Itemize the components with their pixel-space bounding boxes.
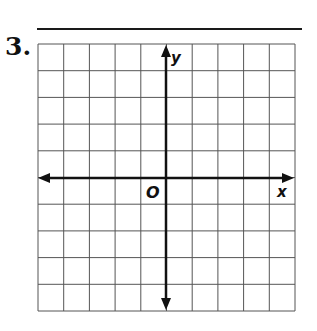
x-axis-label: x	[276, 183, 288, 201]
y-axis-up-arrow-icon	[161, 45, 171, 57]
coordinate-plane: y x O	[0, 0, 317, 331]
y-axis-down-arrow-icon	[161, 298, 171, 310]
x-axis-left-arrow-icon	[38, 173, 50, 183]
origin-label: O	[146, 183, 160, 202]
y-axis-label: y	[171, 49, 182, 67]
x-axis-right-arrow-icon	[282, 173, 294, 183]
